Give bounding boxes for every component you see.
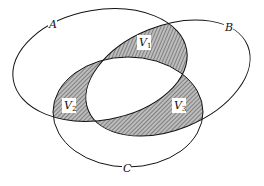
venn-diagram: A B C V1 V2 V3 (0, 0, 264, 186)
set-b-label: B (224, 21, 233, 34)
set-a-label: A (48, 18, 57, 31)
set-c-label: C (123, 162, 132, 175)
